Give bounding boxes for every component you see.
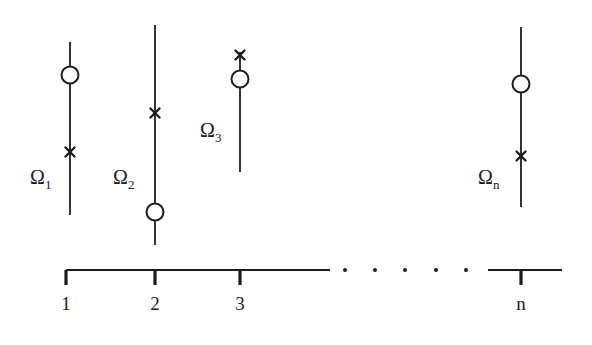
fiber-1 (62, 42, 79, 215)
fiber-3-label: Ω3 (200, 119, 221, 145)
diagram-svg: Ω1Ω2Ω3Ωn123n (0, 0, 592, 345)
axis-tick-label-3: 3 (235, 293, 245, 314)
fiber-1-label: Ω1 (30, 166, 51, 192)
fiber-3-circle-marker (232, 71, 249, 88)
figure-canvas: Ω1Ω2Ω3Ωn123n (0, 0, 592, 345)
fiber-n-label: Ωn (478, 166, 500, 192)
labels-group: Ω1Ω2Ω3Ωn123n (30, 119, 526, 314)
fiber-n-circle-marker (513, 76, 530, 93)
axis-tick-label-n: n (516, 293, 526, 314)
axis-ellipsis-dot-3 (403, 268, 407, 272)
fiber-3-label-omega: Ω (200, 119, 215, 141)
axis-tick-label-2: 2 (150, 293, 160, 314)
fiber-n-label-subscript: n (493, 177, 500, 192)
fiber-2 (147, 25, 164, 245)
fibers-group (62, 25, 530, 245)
fiber-1-circle-marker (62, 67, 79, 84)
fiber-3 (232, 51, 249, 173)
fiber-n (513, 27, 530, 207)
fiber-2-circle-marker (147, 204, 164, 221)
axis-tick-label-1: 1 (61, 293, 71, 314)
axis-ellipsis-dot-4 (434, 268, 438, 272)
fiber-2-label: Ω2 (113, 166, 134, 192)
fiber-n-label-omega: Ω (478, 166, 493, 188)
axis-ellipsis-dot-1 (343, 268, 347, 272)
base-axis-group (66, 268, 562, 285)
fiber-1-label-subscript: 1 (45, 177, 52, 192)
axis-ellipsis-dot-2 (373, 268, 377, 272)
fiber-3-label-subscript: 3 (215, 130, 222, 145)
fiber-2-label-subscript: 2 (128, 177, 135, 192)
fiber-2-label-omega: Ω (113, 166, 128, 188)
axis-ellipsis-dot-5 (464, 268, 468, 272)
fiber-1-label-omega: Ω (30, 166, 45, 188)
